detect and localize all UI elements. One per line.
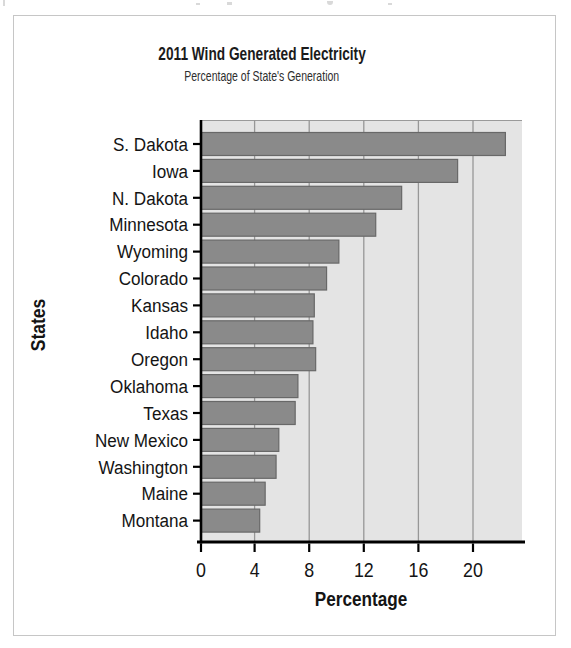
x-tick-label: 20 xyxy=(463,558,483,582)
bar-row xyxy=(201,482,265,505)
y-category-label: Oklahoma xyxy=(110,376,189,397)
bar-row xyxy=(201,455,276,478)
y-category-label: Kansas xyxy=(131,295,188,316)
x-tick-label: 4 xyxy=(250,558,260,582)
cropped-text-remnant xyxy=(388,3,392,5)
bar-row xyxy=(201,186,402,209)
bar-row xyxy=(201,402,295,425)
bar-row xyxy=(201,294,314,317)
chart-card: 2011 Wind Generated Electricity Percenta… xyxy=(13,15,556,636)
y-category-label: Minnesota xyxy=(109,215,189,236)
bar-row xyxy=(201,509,260,532)
x-tick-label: 8 xyxy=(304,558,314,582)
bar-row xyxy=(201,321,313,344)
y-category-label: Oregon xyxy=(131,349,188,370)
cropped-text-remnant xyxy=(227,2,232,5)
bar-row xyxy=(201,267,327,290)
y-category-label: S. Dakota xyxy=(113,134,189,155)
y-category-label: Maine xyxy=(141,484,188,505)
bar-row xyxy=(201,133,505,156)
x-tick-label: 0 xyxy=(196,558,206,582)
x-axis-title: Percentage xyxy=(315,588,407,610)
bar-row xyxy=(201,428,279,451)
bar-row xyxy=(201,159,458,182)
y-category-label: Wyoming xyxy=(117,241,188,262)
y-category-label: Colorado xyxy=(119,268,188,289)
y-category-label: New Mexico xyxy=(95,430,188,451)
chart-title: 2011 Wind Generated Electricity xyxy=(158,42,365,65)
chart-header: 2011 Wind Generated Electricity Percenta… xyxy=(14,42,510,84)
x-tick-label: 16 xyxy=(408,558,428,582)
x-tick-label: 12 xyxy=(354,558,374,582)
chart-subtitle: Percentage of State's Generation xyxy=(185,67,340,84)
y-category-label: N. Dakota xyxy=(112,188,189,209)
bar-row xyxy=(201,213,376,236)
bar-chart-plot: S. DakotaIowaN. DakotaMinnesotaWyomingCo… xyxy=(14,16,555,635)
bar-row xyxy=(201,348,316,371)
cropped-text-remnant xyxy=(3,0,5,6)
cropped-text-remnant xyxy=(196,3,200,5)
y-category-label: Washington xyxy=(98,457,188,478)
bar-row xyxy=(201,375,298,398)
y-category-label: Montana xyxy=(121,510,188,531)
figure-page: 2011 Wind Generated Electricity Percenta… xyxy=(0,0,571,648)
cropped-text-remnant xyxy=(327,1,333,5)
y-axis-title: States xyxy=(27,299,49,352)
y-category-label: Texas xyxy=(143,403,188,424)
bar-row xyxy=(201,240,339,263)
y-category-label: Idaho xyxy=(145,322,188,343)
y-category-label: Iowa xyxy=(152,161,189,182)
